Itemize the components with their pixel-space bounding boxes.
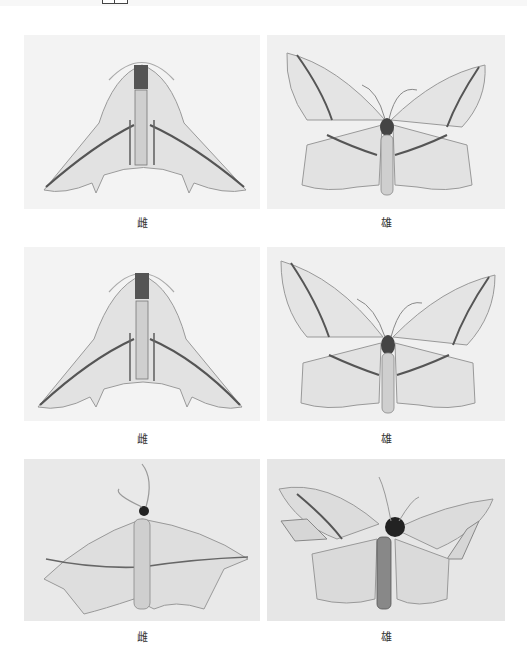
plate-caption: 雄 — [366, 628, 406, 644]
photo-plate-6 — [267, 459, 505, 621]
plate-caption: 雌 — [122, 214, 162, 230]
moth-spread-illustration — [267, 35, 505, 209]
page-top-strip — [0, 0, 527, 6]
photo-plate-3 — [24, 247, 260, 421]
moth-live-illustration — [267, 459, 505, 621]
photo-plate-2 — [267, 35, 505, 209]
photo-plate-1 — [24, 35, 260, 209]
plate-caption: 雌 — [122, 628, 162, 644]
moth-folded-illustration — [24, 35, 260, 209]
plate-caption: 雄 — [366, 430, 406, 446]
moth-live-illustration — [24, 459, 260, 621]
page-header-mark — [102, 0, 128, 4]
moth-spread-illustration — [267, 247, 505, 421]
plate-caption: 雄 — [366, 214, 406, 230]
photo-plate-4 — [267, 247, 505, 421]
plate-caption: 雌 — [122, 430, 162, 446]
moth-folded-illustration — [24, 247, 260, 421]
photo-plate-5 — [24, 459, 260, 621]
